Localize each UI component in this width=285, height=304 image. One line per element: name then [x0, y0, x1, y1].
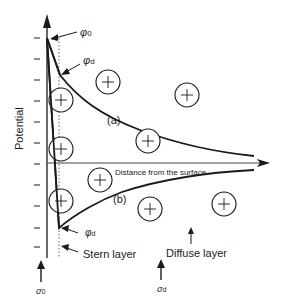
sigma0-annotation: σ0 [36, 260, 45, 296]
curve-b-label: (b) [113, 193, 126, 205]
cation-icon [49, 88, 73, 112]
sigmad-annotation: σd [157, 259, 166, 294]
phi0-subscript: 0 [87, 29, 92, 38]
sigma0-subscript: 0 [41, 288, 45, 295]
y-axis-label: Potential [13, 107, 25, 150]
phid-top-symbol: φ [83, 54, 90, 66]
svg-text:σd: σd [157, 284, 166, 294]
svg-text:φ0: φ0 [80, 26, 92, 38]
stern-layer-label: Stern layer [83, 248, 137, 260]
stern-layer-annotation: Stern layer [61, 244, 137, 260]
phid-top-subscript: d [90, 57, 94, 66]
sigma0-arrowhead-icon [37, 260, 45, 269]
cation-icon [175, 83, 199, 107]
phi0-symbol: φ [80, 26, 87, 38]
phid-top-annotation: φd [61, 54, 95, 75]
cation-icon [88, 168, 112, 192]
curve-a-label: (a) [107, 114, 120, 126]
cation-icon [138, 197, 162, 221]
phid-bottom-subscript: d [92, 230, 96, 237]
diffuse-layer-label: Diffuse layer [166, 247, 227, 259]
svg-text:σ0: σ0 [36, 286, 45, 296]
double-layer-diagram: Potential Distance from the surface φ0 φ… [0, 0, 285, 304]
diffuse-layer-annotation: Diffuse layer [166, 227, 227, 259]
sigmad-arrowhead-icon [157, 259, 165, 268]
svg-text:φd: φd [85, 227, 96, 238]
phi0-arrowhead-icon [50, 34, 58, 41]
stern-layer-arrowhead-icon [61, 244, 69, 251]
cation-icon [49, 189, 73, 213]
distance-axis [47, 159, 270, 167]
potential-axis-arrowhead-icon [43, 14, 51, 28]
phid-top-arrowhead-icon [61, 68, 70, 75]
potential-axis-ticks [34, 38, 40, 247]
cation-icon [96, 70, 120, 94]
svg-text:φd: φd [83, 54, 95, 66]
x-axis-label: Distance from the surface [115, 168, 207, 177]
diffuse-layer-arrowhead-icon [188, 227, 194, 234]
cation-icon [136, 129, 160, 153]
sigmad-subscript: d [162, 286, 166, 293]
phid-bottom-annotation: φd [61, 225, 96, 238]
phi0-annotation: φ0 [50, 26, 92, 41]
cation-icon [212, 192, 236, 216]
